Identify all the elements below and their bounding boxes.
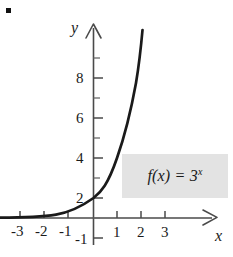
plot-area: [0, 0, 233, 257]
x-tick-label-neg1: -1: [59, 224, 72, 239]
x-tick-label-neg2: -2: [35, 224, 48, 239]
y-tick-label-6: 6: [76, 111, 84, 126]
function-label-box: f(x) = 3x: [122, 154, 228, 198]
x-tick-label-2: 2: [137, 225, 145, 240]
x-axis-label: x: [215, 228, 222, 244]
function-label-base: f(x) = 3: [147, 168, 198, 185]
y-tick-label-8: 8: [76, 71, 84, 86]
y-axis-label: y: [71, 20, 78, 36]
y-axis-major-ticks: [94, 78, 104, 238]
x-tick-label-neg3: -3: [11, 224, 24, 239]
x-tick-label-1: 1: [113, 225, 121, 240]
function-label-exponent: x: [198, 166, 203, 177]
function-label-text: f(x) = 3x: [147, 166, 202, 185]
y-tick-label-4: 4: [76, 151, 84, 166]
y-tick-label-neg1: -1: [75, 232, 88, 247]
exponential-function-figure: -3 -2 -1 1 2 3 8 6 4 2 -1 y x f(x) = 3x: [0, 0, 233, 257]
y-tick-label-2: 2: [76, 191, 84, 206]
x-tick-label-3: 3: [161, 225, 169, 240]
